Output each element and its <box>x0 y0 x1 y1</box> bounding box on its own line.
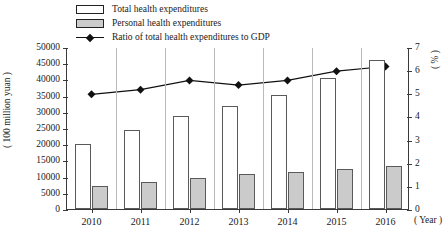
secondary-y-axis-label-7: 7 <box>415 43 420 53</box>
x-axis-tick <box>337 209 338 213</box>
x-axis-tick <box>386 209 387 213</box>
bar-personal-2016 <box>386 166 402 209</box>
y-axis-title: ( 100 million yuan ) <box>2 72 12 148</box>
y-axis-label-15000: 15000 <box>36 156 60 166</box>
bar-total-2013 <box>222 106 238 209</box>
legend-item-ratio-to-gdp: Ratio of total health expenditures to GD… <box>76 31 326 44</box>
secondary-y-axis-title: ( % ) <box>430 50 440 69</box>
secondary-y-axis-tick <box>407 141 412 142</box>
x-axis-label-2011: 2011 <box>131 216 151 227</box>
bar-total-2016 <box>369 60 385 209</box>
y-axis-tick <box>63 48 68 49</box>
secondary-y-axis-tick <box>407 164 412 165</box>
secondary-y-axis-label-4: 4 <box>415 112 420 122</box>
secondary-y-axis-tick <box>407 71 412 72</box>
legend-label: Ratio of total health expenditures to GD… <box>112 32 270 43</box>
y-axis-label-20000: 20000 <box>36 140 60 150</box>
legend-label: Total health expenditures <box>112 4 208 15</box>
bar-personal-2011 <box>141 182 157 209</box>
x-axis-label-2012: 2012 <box>180 216 200 227</box>
chart-legend: Total health expenditures Personal healt… <box>76 3 326 45</box>
ratio-marker-2011 <box>137 86 145 94</box>
x-axis-label-2013: 2013 <box>229 216 249 227</box>
ratio-marker-2014 <box>284 76 292 84</box>
ratio-marker-2012 <box>186 76 194 84</box>
ratio-marker-2015 <box>333 67 341 75</box>
secondary-y-axis-label-5: 5 <box>415 89 420 99</box>
x-axis-label-2014: 2014 <box>278 216 298 227</box>
x-axis-label-2015: 2015 <box>327 216 347 227</box>
secondary-y-axis-label-2: 2 <box>415 159 420 169</box>
secondary-y-axis-label-0: 0 <box>415 205 420 215</box>
ratio-marker-2013 <box>235 81 243 89</box>
y-axis-tick <box>63 97 68 98</box>
y-axis-tick <box>63 80 68 81</box>
x-axis-label-2016: 2016 <box>376 216 396 227</box>
health-expenditure-chart: Total health expenditures Personal healt… <box>0 0 447 241</box>
y-axis-label-45000: 45000 <box>36 59 60 69</box>
bar-total-2015 <box>320 78 336 209</box>
secondary-y-axis-tick <box>407 117 412 118</box>
bar-personal-2015 <box>337 169 353 209</box>
y-axis-tick <box>63 161 68 162</box>
vertical-gridline <box>214 48 215 209</box>
secondary-y-axis-tick <box>407 48 412 49</box>
y-axis-label-30000: 30000 <box>36 108 60 118</box>
bar-total-2010 <box>75 144 91 209</box>
x-axis-label-2010: 2010 <box>82 216 102 227</box>
legend-item-total-health-expenditures: Total health expenditures <box>76 3 326 16</box>
y-axis-label-40000: 40000 <box>36 75 60 85</box>
x-axis-title: ( Year ) <box>414 215 442 226</box>
y-axis-label-5000: 5000 <box>41 189 60 199</box>
y-axis-tick <box>63 194 68 195</box>
legend-label: Personal health expenditures <box>112 18 221 29</box>
bar-total-2011 <box>124 130 140 209</box>
gray-square-swatch-icon <box>76 19 104 28</box>
x-axis-tick <box>288 209 289 213</box>
plot-area: 2010201120122013201420152016050001000015… <box>66 48 409 210</box>
y-axis-tick <box>63 129 68 130</box>
bar-personal-2012 <box>190 178 206 209</box>
bar-personal-2010 <box>92 186 108 209</box>
y-axis-label-10000: 10000 <box>36 173 60 183</box>
ratio-line-path <box>92 67 386 95</box>
secondary-y-axis-tick <box>407 94 412 95</box>
y-axis-label-0: 0 <box>55 205 60 215</box>
y-axis-tick <box>63 145 68 146</box>
vertical-gridline <box>116 48 117 209</box>
vertical-gridline <box>312 48 313 209</box>
vertical-gridline <box>263 48 264 209</box>
secondary-y-axis-label-6: 6 <box>415 66 420 76</box>
ratio-marker-2010 <box>88 90 96 98</box>
y-axis-tick <box>63 64 68 65</box>
x-axis-tick <box>190 209 191 213</box>
x-axis-tick <box>92 209 93 213</box>
y-axis-tick <box>63 178 68 179</box>
secondary-y-axis-tick <box>407 187 412 188</box>
y-axis-label-35000: 35000 <box>36 92 60 102</box>
bar-personal-2013 <box>239 174 255 209</box>
y-axis-label-50000: 50000 <box>36 43 60 53</box>
line-diamond-marker-icon <box>76 33 104 42</box>
secondary-y-axis-label-1: 1 <box>415 182 420 192</box>
y-axis-tick <box>63 210 68 211</box>
y-axis-tick <box>63 113 68 114</box>
x-axis-tick <box>141 209 142 213</box>
vertical-gridline <box>165 48 166 209</box>
secondary-y-axis-tick <box>407 210 412 211</box>
bar-personal-2014 <box>288 172 304 209</box>
secondary-y-axis-label-3: 3 <box>415 136 420 146</box>
white-square-swatch-icon <box>76 5 104 14</box>
vertical-gridline <box>361 48 362 209</box>
bar-total-2012 <box>173 116 189 209</box>
y-axis-label-25000: 25000 <box>36 124 60 134</box>
legend-item-personal-health-expenditures: Personal health expenditures <box>76 17 326 30</box>
bar-total-2014 <box>271 95 287 209</box>
x-axis-tick <box>239 209 240 213</box>
